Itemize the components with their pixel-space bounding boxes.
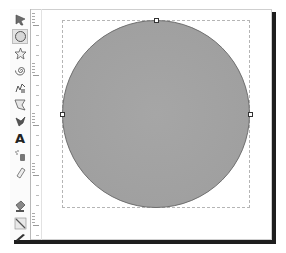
circle-icon [14,30,27,43]
gradient-tool-button[interactable] [12,216,28,231]
spiral-icon [14,64,27,77]
dropper-icon [14,233,27,241]
star-tool-button[interactable] [12,46,28,61]
circle-shape[interactable] [62,20,250,208]
ellipse-tool-button[interactable] [12,29,28,44]
text-tool-button[interactable]: A [12,131,28,146]
selection-handle-top[interactable] [154,18,159,23]
toolbox: A [10,9,31,240]
ruler-label [32,13,35,23]
bucket-icon [14,200,27,213]
spiral-tool-button[interactable] [12,63,28,78]
pointer-icon [14,13,27,26]
calligraphy-icon [14,115,27,128]
paint-bucket-tool-button[interactable] [12,199,28,214]
ruler-label [32,163,35,173]
eraser-icon [14,166,27,179]
selection-handle-right[interactable] [248,112,253,117]
window-shadow-bottom [14,240,276,244]
ruler-label [32,213,35,223]
gradient-icon [14,217,27,230]
pencil-tool-button[interactable] [12,80,28,95]
vertical-ruler [31,9,42,240]
selection-handle-left[interactable] [60,112,65,117]
spray-tool-button[interactable] [12,148,28,163]
ruler-label [32,63,35,73]
window-shadow-right [272,12,276,244]
selector-tool-button[interactable] [12,12,28,27]
dropper-tool-button[interactable] [12,233,28,241]
calligraphy-tool-button[interactable] [12,114,28,129]
pen-icon [14,98,27,111]
spray-icon [14,149,27,162]
eraser-tool-button[interactable] [12,165,28,180]
pen-tool-button[interactable] [12,97,28,112]
star-icon [14,47,27,60]
text-icon: A [15,132,25,145]
pencil-icon [14,81,27,94]
ruler-label [32,113,35,123]
